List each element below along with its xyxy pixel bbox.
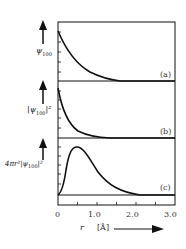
x-tick-1: 1.0 xyxy=(88,210,101,219)
x-axis-label-var: r xyxy=(80,223,84,232)
panel-a-tag: (a) xyxy=(160,70,171,79)
curve-radial-distribution xyxy=(58,147,175,195)
x-axis-arrow xyxy=(114,225,164,233)
x-tick-3: 3.0 xyxy=(164,210,177,219)
panel-a-ylabel: ψ100 xyxy=(36,46,52,57)
plot-frame xyxy=(58,22,175,205)
x-tick-2: 2.0 xyxy=(126,210,139,219)
x-tick-0: 0 xyxy=(55,210,60,219)
curve-psi100-squared xyxy=(58,88,175,138)
x-axis-label-unit: [Å] xyxy=(97,223,109,232)
panel-c-tag: (c) xyxy=(160,183,171,192)
panel-b-tag: (b) xyxy=(160,127,171,136)
panel-b-ylabel: |ψ100|² xyxy=(27,105,51,116)
y-axis-arrows xyxy=(39,20,47,160)
panel-c-ylabel: 4πr²|ψ100|² xyxy=(5,160,43,169)
curve-psi100 xyxy=(58,31,175,81)
